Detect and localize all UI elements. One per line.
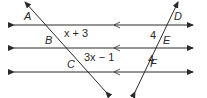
transversal-right xyxy=(135,2,178,92)
segment-de-length: 4 xyxy=(150,29,156,41)
segment-bc-length: 3x − 1 xyxy=(84,51,114,63)
parallel-lines-diagram: A B C D E F x + 3 3x − 1 4 4 xyxy=(0,0,207,98)
label-c: C xyxy=(67,58,75,70)
transversal-left xyxy=(25,2,106,92)
segment-ab-length: x + 3 xyxy=(64,27,88,39)
label-d: D xyxy=(174,10,182,22)
label-e: E xyxy=(163,34,171,46)
segment-ef-length: 4 xyxy=(148,53,154,65)
parallel-line-3 xyxy=(14,69,193,75)
label-a: A xyxy=(23,10,31,22)
label-b: B xyxy=(45,34,52,46)
